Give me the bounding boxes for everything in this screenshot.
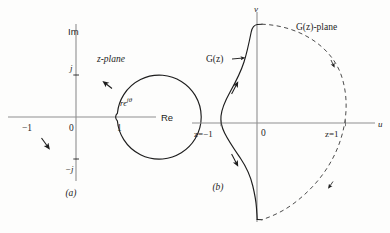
panel-a-tick-plus-one-label: 1 [117, 123, 122, 133]
panel-b-direction-arrow-upper-dashed [331, 60, 334, 66]
panel-b-curve-label: G(z) [206, 54, 223, 65]
panel-a-tick-plus-j-label: j [69, 63, 73, 73]
panel-a-plane-label: z-plane [96, 54, 125, 64]
panel-b-origin-label: 0 [261, 128, 266, 138]
panel-a-direction-arrow-upper [105, 83, 112, 89]
panel-b-axis-v-label: v [254, 4, 258, 14]
panel-a-contour-annotation-exponent: jθ [126, 96, 133, 104]
panel-a-direction-arrow-lower [42, 138, 49, 147]
figure-container: Im Re z-plane 0 −1 1 j −j rϵjθ (a) [0, 0, 390, 233]
panel-b-curve-label-arrow-icon [232, 58, 243, 59]
panel-a-tick-minus-j-label: −j [65, 164, 74, 174]
panel-a-contour-annotation: rϵjθ [120, 96, 133, 108]
panel-a-origin-label: 0 [69, 123, 74, 133]
panel-b-tick-minus-one-label: z=−1 [194, 129, 213, 139]
panel-b-plane-label: G(z)-plane [296, 22, 337, 33]
panel-b-gz-solid-curve [221, 25, 258, 220]
panel-a-tick-minus-one-label: −1 [22, 123, 32, 133]
panel-b: v u G(z)-plane G(z) 0 z=−1 z=1 (b) [192, 4, 383, 222]
panel-b-direction-arrow-lower-solid [232, 154, 237, 164]
panel-b-direction-arrow-lower-dashed [329, 182, 333, 187]
panel-b-tick-plus-one-label: z=1 [325, 129, 339, 139]
figure-svg: Im Re z-plane 0 −1 1 j −j rϵjθ (a) [0, 0, 390, 233]
panel-a-axis-real-label: Re [161, 112, 173, 123]
panel-b-axis-u-label: u [378, 119, 383, 129]
panel-a: Im Re z-plane 0 −1 1 j −j rϵjθ (a) [8, 24, 201, 199]
panel-b-caption: (b) [212, 182, 223, 193]
panel-b-closing-semicircle-dashed [262, 24, 347, 220]
panel-a-axis-imaginary-label: Im [68, 26, 79, 37]
panel-a-caption: (a) [65, 188, 76, 199]
